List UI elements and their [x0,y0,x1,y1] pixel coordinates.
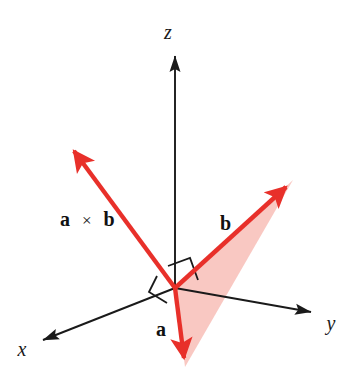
vector-b-label: b [220,212,231,234]
z-axis-label: z [163,21,172,43]
cross-product-figure: z y x a × b b a [0,0,356,387]
cross-product-operator: × [82,211,92,230]
y-axis-label: y [325,312,336,335]
right-angle-marker-a [149,276,167,303]
x-axis-label: x [17,338,27,360]
cross-product-label-b: b [104,208,115,230]
cross-product-label: a × b [60,208,115,230]
vector-a-label: a [156,318,166,340]
figure-canvas: z y x a × b b a [0,0,356,387]
cross-product-label-a: a [60,208,70,230]
